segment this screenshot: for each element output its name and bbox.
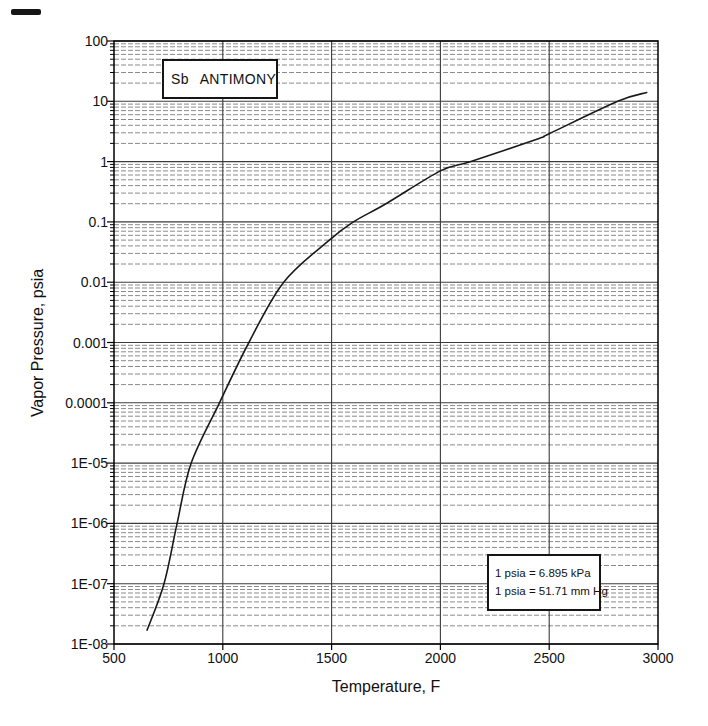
y-tick-label: 0.01 <box>81 273 108 291</box>
y-tick-label: 1E-05 <box>71 454 108 472</box>
x-axis-title: Temperature, F <box>114 677 658 697</box>
y-tick-label: 0.001 <box>73 334 108 352</box>
element-title-box: Sb ANTIMONY <box>162 59 278 99</box>
unit-conversion-line-1: 1 psia = 6.895 kPa <box>495 565 599 583</box>
unit-conversion-line-2: 1 psia = 51.71 mm Hg <box>495 583 599 601</box>
element-symbol: Sb <box>171 71 189 87</box>
x-tick-label: 1000 <box>193 650 253 667</box>
x-tick-label: 2000 <box>410 650 470 667</box>
y-tick-label: 1 <box>100 153 108 171</box>
y-major-ticks <box>107 41 114 644</box>
x-tick-label: 2500 <box>519 650 579 667</box>
vapor-pressure-chart: Vapor Pressure, psia Temperature, F Sb A… <box>0 0 708 726</box>
y-tick-label: 1E-06 <box>71 514 108 532</box>
x-tick-label: 500 <box>84 650 144 667</box>
y-tick-label: 0.0001 <box>65 394 108 412</box>
unit-conversion-box: 1 psia = 6.895 kPa 1 psia = 51.71 mm Hg <box>487 554 601 611</box>
y-tick-label: 100 <box>85 32 108 50</box>
vapor-pressure-curve <box>147 93 647 631</box>
element-name: ANTIMONY <box>200 71 276 87</box>
y-minor-gridlines <box>114 44 658 626</box>
y-axis-title: Vapor Pressure, psia <box>28 193 48 493</box>
y-tick-label: 1E-07 <box>71 575 108 593</box>
x-tick-label: 1500 <box>302 650 362 667</box>
y-tick-label: 0.1 <box>89 213 108 231</box>
x-tick-label: 3000 <box>628 650 688 667</box>
y-tick-label: 10 <box>92 92 108 110</box>
